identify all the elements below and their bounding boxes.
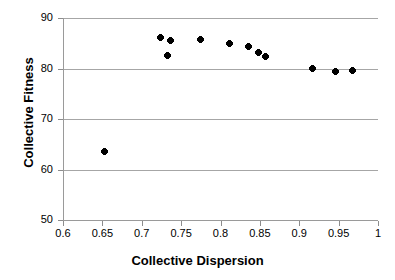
- x-axis-title: Collective Dispersion: [0, 253, 395, 268]
- x-tick-label: 0.95: [317, 228, 361, 239]
- y-tick-mark: [58, 119, 63, 120]
- data-point: [263, 54, 268, 59]
- x-tick-label: 0.6: [41, 228, 85, 239]
- x-tick-mark: [102, 221, 103, 226]
- y-tick-label: 60: [13, 164, 53, 175]
- x-tick-label: 0.8: [199, 228, 243, 239]
- data-point: [310, 66, 315, 71]
- data-point: [333, 69, 338, 74]
- data-point: [256, 50, 261, 55]
- y-tick-label: 90: [13, 12, 53, 23]
- gridline-y: [64, 119, 378, 120]
- data-point: [350, 68, 355, 73]
- x-tick-label: 1: [356, 228, 395, 239]
- data-point: [198, 37, 203, 42]
- y-tick-mark: [58, 69, 63, 70]
- data-point: [227, 41, 232, 46]
- x-tick-label: 0.75: [159, 228, 203, 239]
- x-tick-mark: [339, 221, 340, 226]
- data-point: [158, 35, 163, 40]
- gridline-y: [64, 170, 378, 171]
- data-point: [102, 149, 107, 154]
- y-tick-mark: [58, 170, 63, 171]
- gridline-y: [64, 18, 378, 19]
- x-tick-mark: [221, 221, 222, 226]
- data-point: [168, 38, 173, 43]
- x-tick-mark: [63, 221, 64, 226]
- data-point: [165, 53, 170, 58]
- x-tick-mark: [378, 221, 379, 226]
- y-tick-label: 70: [13, 113, 53, 124]
- data-point: [246, 44, 251, 49]
- x-tick-label: 0.9: [277, 228, 321, 239]
- x-tick-label: 0.7: [120, 228, 164, 239]
- x-tick-label: 0.65: [80, 228, 124, 239]
- y-tick-label: 80: [13, 63, 53, 74]
- plot-area: [63, 18, 378, 220]
- scatter-chart: Collective Fitness Collective Dispersion…: [0, 0, 395, 280]
- x-tick-mark: [260, 221, 261, 226]
- gridline-y: [64, 69, 378, 70]
- x-tick-mark: [142, 221, 143, 226]
- x-tick-label: 0.85: [238, 228, 282, 239]
- x-tick-mark: [299, 221, 300, 226]
- y-tick-label: 50: [13, 214, 53, 225]
- y-tick-mark: [58, 18, 63, 19]
- x-tick-mark: [181, 221, 182, 226]
